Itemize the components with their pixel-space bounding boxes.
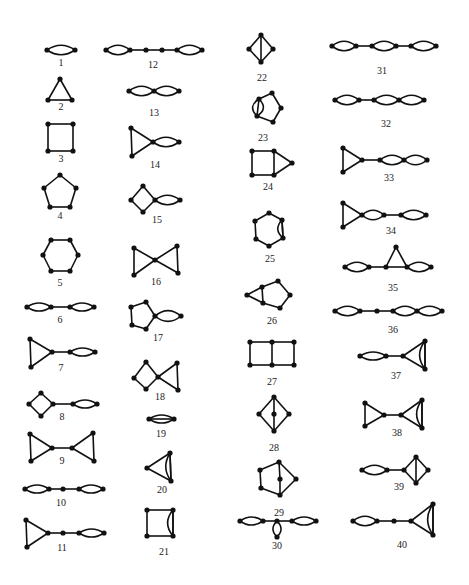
vertex	[274, 518, 279, 523]
vertex	[28, 364, 33, 369]
vertex	[128, 304, 133, 309]
vertex	[129, 322, 134, 327]
vertex	[260, 518, 265, 523]
vertex	[247, 362, 252, 367]
vertex	[362, 400, 367, 405]
vertex	[270, 46, 275, 51]
vertex	[129, 153, 134, 158]
edge	[132, 142, 153, 156]
graph-28: 28	[256, 394, 291, 453]
multi-edge	[27, 307, 51, 311]
graph-5: 5	[40, 237, 80, 288]
vertex	[384, 467, 389, 472]
vertex	[393, 244, 398, 249]
vertex	[271, 148, 276, 153]
graph-36: 36	[332, 306, 444, 335]
graphs-layer: 1234567891011121314151617181920212223242…	[22, 32, 444, 557]
vertex	[256, 96, 261, 101]
multi-edge	[106, 50, 130, 55]
vertex	[428, 264, 433, 269]
graph-label: 34	[386, 225, 396, 236]
edge	[131, 186, 143, 200]
vertex	[23, 517, 28, 522]
multi-edge	[27, 303, 51, 307]
vertex	[24, 544, 29, 549]
multi-edge	[404, 155, 427, 160]
vertex	[313, 518, 318, 523]
graph-9: 9	[27, 430, 96, 466]
multi-edge	[374, 95, 399, 100]
graph-label: 13	[149, 107, 159, 118]
edge	[30, 434, 31, 461]
vertex	[400, 353, 405, 358]
edge	[72, 433, 93, 448]
edge	[134, 260, 155, 275]
multi-edge	[353, 516, 377, 521]
graph-label: 39	[394, 481, 404, 492]
vertex	[159, 47, 164, 52]
multi-edge	[335, 95, 359, 100]
graph-23: 23	[253, 90, 284, 143]
vertex	[419, 397, 424, 402]
edge	[60, 79, 72, 100]
graph-label: 32	[381, 118, 391, 129]
vertex	[48, 268, 53, 273]
vertex	[170, 533, 175, 538]
multi-edge	[417, 306, 442, 311]
vertex	[47, 204, 52, 209]
vertex	[75, 252, 80, 257]
vertex	[340, 145, 345, 150]
vertex	[152, 313, 157, 318]
graph-label: 5	[58, 277, 63, 288]
graph-30: 30	[237, 517, 318, 551]
vertex	[38, 413, 43, 418]
multi-edge	[411, 41, 436, 46]
multi-edge	[372, 46, 396, 51]
vertex	[131, 245, 136, 250]
vertex	[140, 183, 145, 188]
edge	[260, 462, 279, 470]
vertex	[342, 264, 347, 269]
multi-edge	[240, 517, 263, 521]
vertex	[50, 401, 55, 406]
multi-edge	[428, 504, 433, 535]
edge	[131, 128, 132, 156]
multi-edge	[25, 485, 49, 489]
edge	[177, 363, 178, 390]
multi-edge	[372, 41, 396, 46]
vertex	[45, 148, 50, 153]
vertex	[414, 308, 419, 313]
vertex	[91, 304, 96, 309]
edge	[131, 307, 132, 325]
edge	[274, 151, 292, 163]
graph-label: 23	[258, 132, 268, 143]
graph-label: 25	[265, 253, 275, 264]
vertex	[401, 467, 406, 472]
vertex	[329, 43, 334, 48]
multi-edge	[360, 352, 386, 356]
multi-edge	[362, 215, 384, 220]
multi-edge	[362, 470, 387, 475]
vertex	[374, 518, 379, 523]
graph-label: 33	[384, 172, 394, 183]
vertex	[48, 237, 53, 242]
edge	[282, 220, 283, 238]
vertex	[174, 360, 179, 365]
vertex	[126, 88, 131, 93]
vertex	[271, 394, 276, 399]
vertex	[374, 308, 379, 313]
vertex	[94, 401, 99, 406]
graph-label: 36	[388, 324, 398, 335]
graph-34: 34	[340, 200, 428, 236]
vertex	[131, 375, 136, 380]
edge	[274, 397, 289, 414]
graph-38: 38	[362, 397, 424, 438]
graph-12: 12	[103, 45, 204, 70]
vertex	[151, 88, 156, 93]
vertex	[237, 518, 242, 523]
graph-14: 14	[128, 125, 181, 170]
graph-18: 18	[131, 359, 180, 402]
vertex	[170, 507, 175, 512]
edge	[343, 160, 362, 172]
vertex	[150, 139, 155, 144]
